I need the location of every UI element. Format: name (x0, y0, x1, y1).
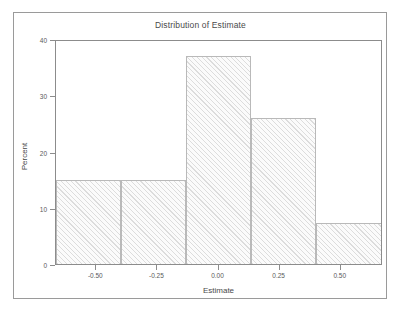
y-axis-title: Percent (20, 127, 29, 187)
y-axis-tick-label: 30 (7, 93, 47, 100)
x-axis-tick (95, 265, 96, 270)
histogram-bar (121, 180, 186, 264)
y-axis-tick (50, 209, 55, 210)
x-axis-tick-label: -0.50 (75, 272, 115, 279)
y-axis-tick-label: 40 (7, 37, 47, 44)
x-axis-tick (218, 265, 219, 270)
histogram-bar (251, 118, 316, 264)
x-axis-tick-label: 0.50 (320, 272, 360, 279)
y-axis-tick-label: 20 (7, 149, 47, 156)
x-axis-title: Estimate (55, 286, 382, 295)
plot-area (55, 40, 382, 265)
histogram-bar (186, 56, 251, 264)
histogram-figure: Distribution of Estimate Percent 0102030… (0, 0, 401, 318)
y-axis-tick (50, 40, 55, 41)
x-axis-tick-label: 0.00 (198, 272, 238, 279)
histogram-bar (316, 223, 382, 264)
y-axis-tick (50, 96, 55, 97)
x-axis-tick (340, 265, 341, 270)
x-axis-tick (279, 265, 280, 270)
y-axis-tick-label: 0 (7, 262, 47, 269)
chart-title: Distribution of Estimate (13, 20, 388, 30)
x-axis-tick-label: -0.25 (136, 272, 176, 279)
x-axis-tick (156, 265, 157, 270)
y-axis-tick (50, 153, 55, 154)
y-axis-tick (50, 265, 55, 266)
histogram-bar (56, 180, 121, 264)
y-axis-tick-label: 10 (7, 205, 47, 212)
x-axis-tick-label: 0.25 (259, 272, 299, 279)
